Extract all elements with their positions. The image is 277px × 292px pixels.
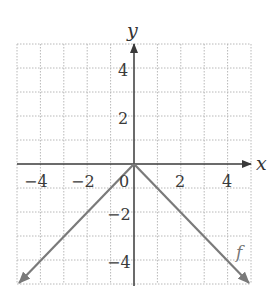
x-tick-label: 4 bbox=[222, 172, 232, 191]
y-axis-label: y bbox=[126, 19, 138, 41]
y-tick-label: 2 bbox=[118, 109, 128, 128]
origin-label: 0 bbox=[119, 172, 129, 191]
x-tick-label: 2 bbox=[175, 172, 185, 191]
x-tick-label: −4 bbox=[24, 172, 48, 191]
y-tick-label: 4 bbox=[118, 61, 128, 80]
coordinate-plane: x y −4 −2 0 2 4 4 2 −2 −4 f bbox=[0, 0, 277, 292]
x-axis-label: x bbox=[256, 152, 267, 174]
y-tick-label: −4 bbox=[107, 253, 131, 272]
function-label: f bbox=[234, 242, 245, 262]
y-tick-label: −2 bbox=[107, 205, 131, 224]
x-tick-label: −2 bbox=[71, 172, 95, 191]
